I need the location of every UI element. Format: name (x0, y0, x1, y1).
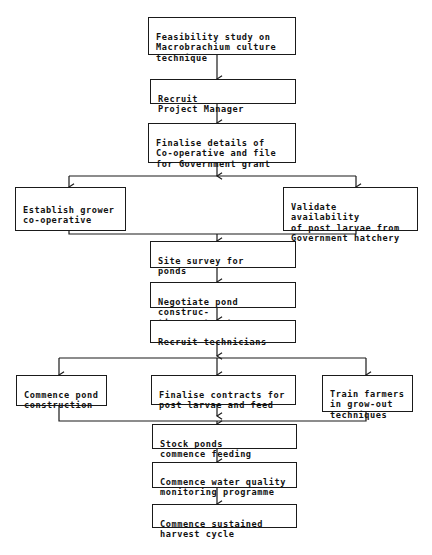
node-site-survey: Site survey for ponds (150, 241, 296, 268)
node-validate-post-larvae: Validate availability of post larvae fro… (283, 187, 418, 231)
node-label: Train farmers in grow-out techniques (330, 389, 406, 421)
node-negotiate-construction-contract: Negotiate pond construc- tion contract (150, 282, 296, 308)
node-recruit-technicians: Recruit technicians (150, 320, 296, 343)
node-label: Commence water quality monitoring progra… (160, 477, 290, 498)
node-label: Establish grower co-operative (23, 205, 119, 226)
node-feasibility-study: Feasibility study on Macrobrachium cultu… (148, 17, 296, 55)
node-finalise-cooperative-details: Finalise details of Co-operative and fil… (148, 123, 296, 163)
node-label: Stock ponds commence feeding (160, 439, 290, 460)
node-sustained-harvest: Commence sustained harvest cycle (152, 504, 297, 528)
node-label: Feasibility study on Macrobrachium cultu… (156, 32, 289, 64)
node-label: Commence pond construction (24, 390, 100, 411)
node-train-farmers: Train farmers in grow-out techniques (322, 375, 413, 412)
node-label: Recruit Project Manager (158, 94, 289, 115)
node-establish-grower-cooperative: Establish grower co-operative (15, 187, 126, 231)
node-recruit-project-manager: Recruit Project Manager (150, 79, 296, 104)
node-label: Finalise details of Co-operative and fil… (156, 138, 289, 170)
node-label: Recruit technicians (158, 337, 289, 348)
node-commence-pond-construction: Commence pond construction (16, 375, 107, 406)
node-label: Site survey for ponds (158, 256, 289, 277)
node-label: Validate availability of post larvae fro… (291, 202, 411, 244)
node-water-quality-monitoring: Commence water quality monitoring progra… (152, 462, 297, 488)
node-stock-ponds: Stock ponds commence feeding (152, 424, 297, 449)
node-finalise-contracts: Finalise contracts for post larvae and f… (151, 375, 296, 405)
node-label: Commence sustained harvest cycle (160, 519, 290, 540)
flowchart: Feasibility study on Macrobrachium cultu… (0, 0, 432, 555)
node-label: Finalise contracts for post larvae and f… (159, 390, 289, 411)
